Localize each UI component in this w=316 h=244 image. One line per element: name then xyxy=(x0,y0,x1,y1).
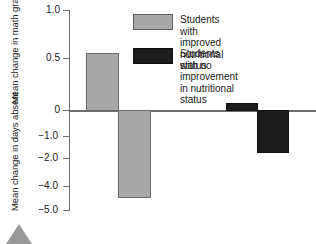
bar-improved-gpa xyxy=(86,53,119,111)
y-axis-title-upper: Mean change in math grade point average xyxy=(10,8,21,104)
tick-label-m4-0: −4.0 xyxy=(28,181,58,191)
tick-mark-m1-0 xyxy=(63,136,69,137)
tick-mark-m4-0 xyxy=(63,186,69,187)
legend-swatch-no-improvement-icon xyxy=(133,48,173,64)
legend-label-no-improvement: Students with no improvement in nutritio… xyxy=(180,48,238,106)
tick-label-m1-0: −1.0 xyxy=(28,131,58,141)
bar-no-improvement-days-absent xyxy=(257,110,289,153)
tick-mark-0 xyxy=(63,110,69,111)
triangle-marker-icon xyxy=(6,224,32,244)
tick-mark-m2-0 xyxy=(63,158,69,159)
bar-improved-days-absent xyxy=(118,110,151,198)
tick-mark-m5-0 xyxy=(63,210,69,211)
tick-label-m2-0: −2.0 xyxy=(28,153,58,163)
tick-label-m5-0: −5.0 xyxy=(28,205,58,215)
tick-label-1-0: 1.0 xyxy=(30,5,60,15)
tick-mark-1-0 xyxy=(63,10,69,11)
tick-label-0: 0 xyxy=(30,105,60,115)
legend-item-no-improvement: Students with no improvement in nutritio… xyxy=(133,48,238,106)
tick-mark-0-5 xyxy=(63,58,69,59)
tick-label-0-5: 0.5 xyxy=(30,53,60,63)
y-axis-title-lower: Mean change in days absent xyxy=(10,125,21,211)
legend-swatch-improved-icon xyxy=(133,14,173,30)
